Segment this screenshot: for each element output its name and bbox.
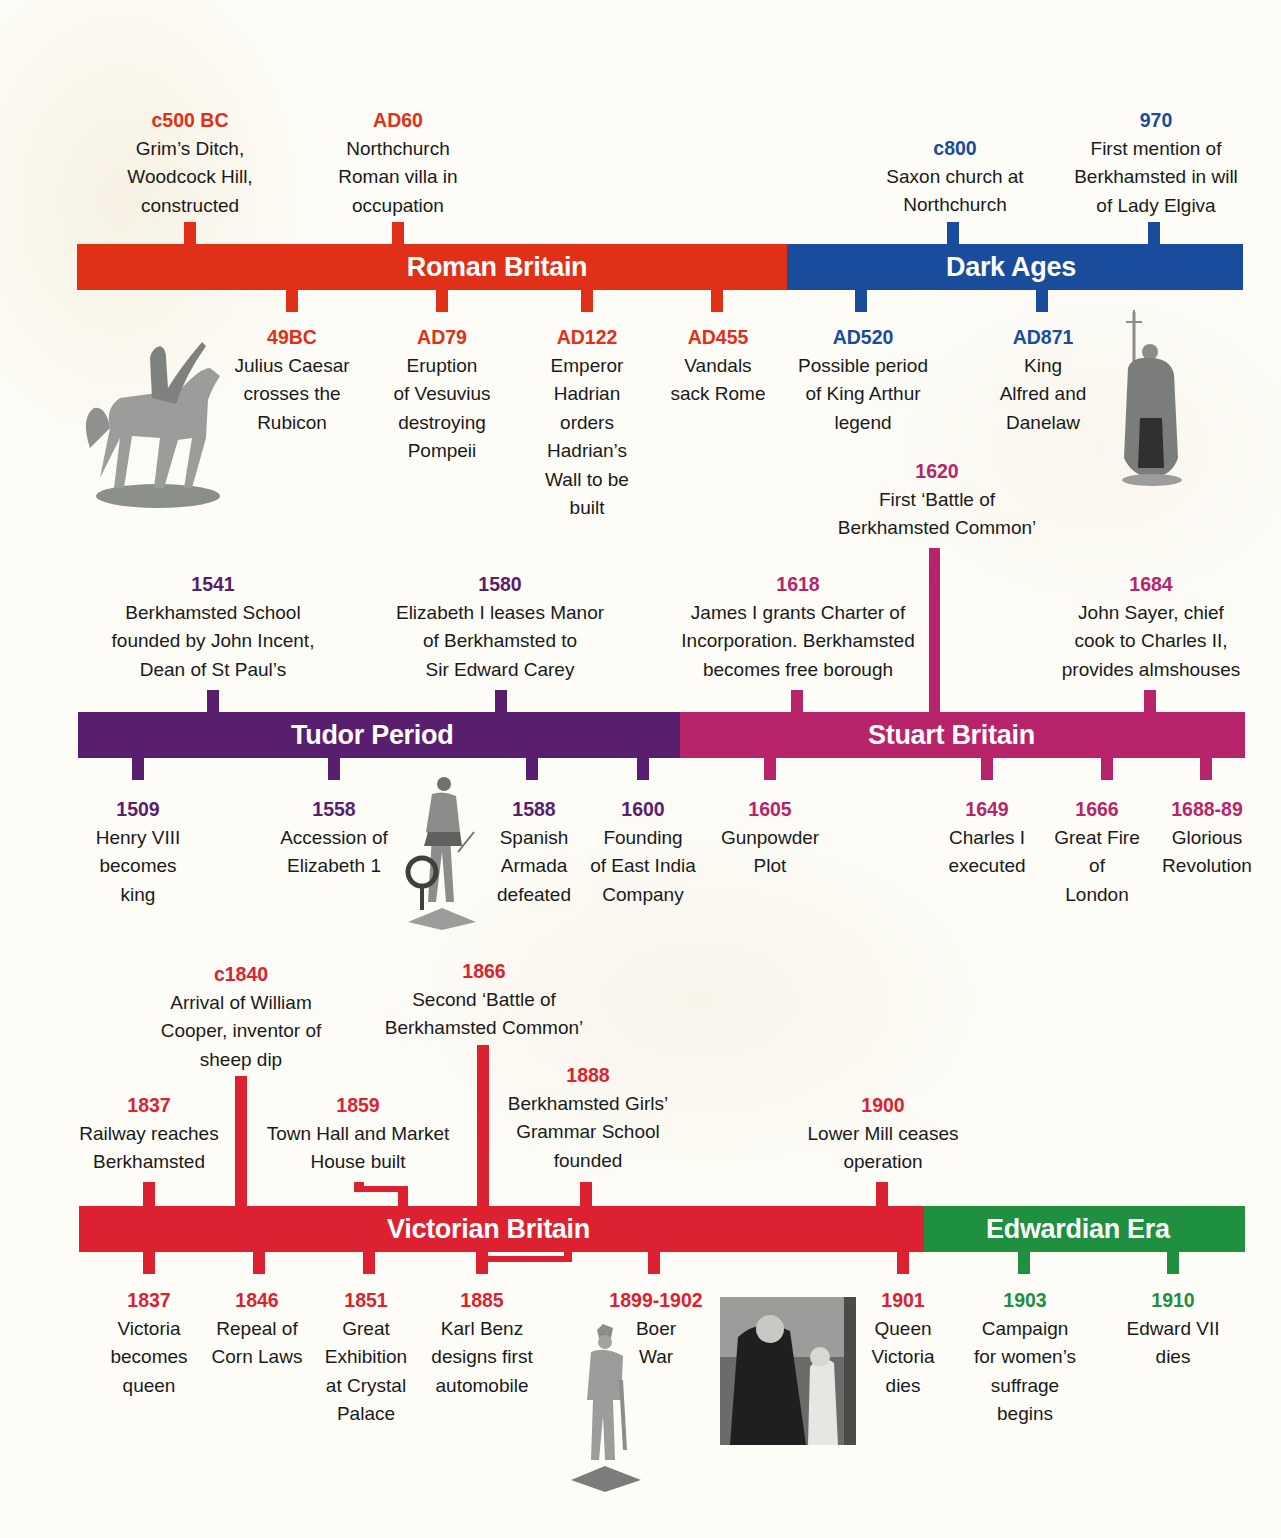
event-1688-89: 1688-89 Glorious Revolution (1162, 795, 1252, 881)
event-year: 1837 (110, 1286, 187, 1315)
connector-1859-c (398, 1186, 408, 1206)
tick (526, 758, 538, 780)
event-text: First mention of Berkhamsted in will of … (1074, 135, 1238, 221)
event-text: Julius Caesar crosses the Rubicon (234, 352, 349, 438)
tick (143, 1182, 155, 1206)
event-text: Campaign for women’s suffrage begins (974, 1315, 1076, 1429)
event-text: John Sayer, chief cook to Charles II, pr… (1062, 599, 1240, 685)
event-year: 1910 (1127, 1286, 1220, 1315)
event-1600: 1600 Founding of East India Company (590, 795, 696, 909)
event-1888: 1888 Berkhamsted Girls’ Grammar School f… (508, 1061, 669, 1175)
event-text: Railway reaches Berkhamsted (79, 1120, 218, 1177)
event-text: Second ‘Battle of Berkhamsted Common’ (385, 986, 584, 1043)
event-text: Henry VIII becomes king (96, 824, 180, 910)
tick (184, 222, 196, 244)
event-text: Great Fire of London (1054, 824, 1140, 910)
tick (328, 758, 340, 780)
event-year: AD455 (670, 323, 765, 352)
event-year: 1600 (590, 795, 696, 824)
event-text: Eruption of Vesuvius destroying Pompeii (393, 352, 490, 466)
event-ad122: AD122 Emperor Hadrian orders Hadrian’s W… (545, 323, 629, 523)
connector-line-c1840 (235, 1076, 247, 1206)
event-text: Edward VII dies (1127, 1315, 1220, 1372)
period-label: Edwardian Era (986, 1214, 1170, 1245)
tick (711, 290, 723, 312)
julius-caesar-statue-image (80, 328, 240, 508)
event-year: 1888 (508, 1061, 669, 1090)
tick (1036, 290, 1048, 312)
event-year: 1846 (212, 1286, 303, 1315)
event-1901: 1901 Queen Victoria dies (871, 1286, 934, 1400)
event-text: Arrival of William Cooper, inventor of s… (161, 989, 322, 1075)
tick (791, 690, 803, 712)
tick (436, 290, 448, 312)
event-year: AD871 (1000, 323, 1087, 352)
event-text: Karl Benz designs first automobile (431, 1315, 532, 1401)
event-49bc: 49BC Julius Caesar crosses the Rubicon (234, 323, 349, 437)
event-year: 1900 (808, 1091, 959, 1120)
event-text: Repeal of Corn Laws (212, 1315, 303, 1372)
event-ad455: AD455 Vandals sack Rome (670, 323, 765, 409)
event-1541: 1541 Berkhamsted School founded by John … (112, 570, 315, 684)
event-1605: 1605 Gunpowder Plot (721, 795, 819, 881)
event-year: 1688-89 (1162, 795, 1252, 824)
period-bar-roman: Roman Britain (77, 244, 787, 290)
tick (581, 290, 593, 312)
event-year: c1840 (161, 960, 322, 989)
event-c500bc: c500 BC Grim’s Ditch, Woodcock Hill, con… (127, 106, 252, 220)
event-year: 1580 (396, 570, 604, 599)
event-year: 1666 (1054, 795, 1140, 824)
king-alfred-statue-image (1112, 308, 1192, 488)
event-year: AD122 (545, 323, 629, 352)
event-year: 1649 (948, 795, 1025, 824)
tick (1167, 1252, 1179, 1274)
event-text: Grim’s Ditch, Woodcock Hill, constructed (127, 135, 252, 221)
tick (143, 1252, 155, 1274)
event-ad79: AD79 Eruption of Vesuvius destroying Pom… (393, 323, 490, 466)
connector-line-1866 (477, 1045, 489, 1206)
period-label: Tudor Period (291, 720, 453, 751)
tick (392, 222, 404, 244)
event-text: Berkhamsted Girls’ Grammar School founde… (508, 1090, 669, 1176)
event-year: 1899-1902 (609, 1286, 702, 1315)
event-text: Queen Victoria dies (871, 1315, 934, 1401)
tick (855, 290, 867, 312)
event-text: King Alfred and Danelaw (1000, 352, 1087, 438)
period-bar-stuart: Stuart Britain (680, 712, 1245, 758)
event-text: Glorious Revolution (1162, 824, 1252, 881)
event-year: 1509 (96, 795, 180, 824)
tick (897, 1252, 909, 1274)
tick (363, 1252, 375, 1274)
event-year: 1605 (721, 795, 819, 824)
event-1684: 1684 John Sayer, chief cook to Charles I… (1062, 570, 1240, 684)
event-year: 970 (1074, 106, 1238, 135)
tick (132, 758, 144, 780)
event-text: Saxon church at Northchurch (886, 163, 1023, 220)
event-970: 970 First mention of Berkhamsted in will… (1074, 106, 1238, 220)
event-year: 1620 (838, 457, 1037, 486)
event-1588: 1588 Spanish Armada defeated (497, 795, 571, 909)
event-year: 1558 (280, 795, 388, 824)
event-1580: 1580 Elizabeth I leases Manor of Berkham… (396, 570, 604, 684)
event-text: Possible period of King Arthur legend (798, 352, 928, 438)
tick (1101, 758, 1113, 780)
event-year: 1885 (431, 1286, 532, 1315)
tick (947, 222, 959, 244)
tick (1018, 1252, 1030, 1274)
event-text: Gunpowder Plot (721, 824, 819, 881)
tick (1200, 758, 1212, 780)
event-year: 1851 (325, 1286, 407, 1315)
event-ad60: AD60 Northchurch Roman villa in occupati… (338, 106, 457, 220)
event-text: Victoria becomes queen (110, 1315, 187, 1401)
event-1900: 1900 Lower Mill ceases operation (808, 1091, 959, 1177)
event-text: Vandals sack Rome (670, 352, 765, 409)
event-ad520: AD520 Possible period of King Arthur leg… (798, 323, 928, 437)
event-1620: 1620 First ‘Battle of Berkhamsted Common… (838, 457, 1037, 543)
event-year: AD520 (798, 323, 928, 352)
tick (876, 1182, 888, 1206)
event-year: 1866 (385, 957, 584, 986)
event-year: 1901 (871, 1286, 934, 1315)
connector-1885-c (564, 1246, 572, 1260)
event-text: Northchurch Roman villa in occupation (338, 135, 457, 221)
event-year: 1859 (267, 1091, 450, 1120)
